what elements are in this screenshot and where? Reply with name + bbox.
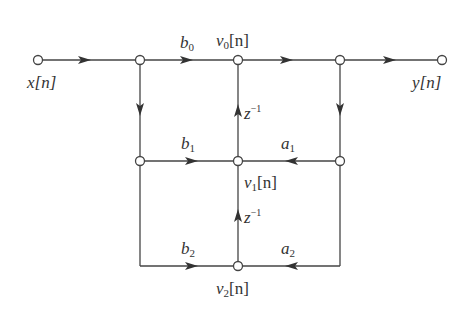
delay-2-sup: −1: [251, 207, 262, 218]
delay-1: z−1: [244, 104, 261, 122]
gain-b1-base: b: [181, 134, 190, 153]
output-label: y[n]: [412, 74, 441, 91]
gain-b1: b1: [181, 135, 195, 154]
node-branch-right: [336, 56, 345, 65]
node-branch-left: [136, 56, 145, 65]
gain-b2-base: b: [181, 239, 190, 258]
gain-a2: a2: [281, 240, 295, 259]
node-mid-left: [136, 157, 145, 166]
gain-a2-base: a: [281, 239, 290, 258]
node-label-v2: v2[n]: [216, 280, 249, 299]
gain-a1-base: a: [281, 134, 290, 153]
gain-a1: a1: [281, 135, 295, 154]
node-v0: [234, 56, 243, 65]
v1-arg: [n]: [257, 173, 277, 192]
delay-2: z−1: [244, 208, 261, 226]
node-label-v1: v1[n]: [244, 174, 277, 193]
node-v1: [234, 157, 243, 166]
gain-b0: b0: [180, 34, 194, 53]
node-v2: [234, 262, 243, 271]
node-label-v0: v0[n]: [216, 32, 249, 51]
output-node: [438, 56, 447, 65]
gain-b2: b2: [181, 240, 195, 259]
delay-2-base: z: [244, 208, 251, 227]
delay-1-base: z: [244, 104, 251, 123]
v0-arg: [n]: [229, 31, 249, 50]
gain-b1-sub: 1: [190, 142, 196, 154]
delay-1-sup: −1: [251, 103, 262, 114]
v2-arg: [n]: [229, 279, 249, 298]
gain-b0-base: b: [180, 33, 189, 52]
gain-b2-sub: 2: [190, 247, 196, 259]
input-label: x[n]: [27, 74, 56, 91]
v2-base: v: [216, 279, 224, 298]
gain-a1-sub: 1: [290, 142, 296, 154]
input-node: [34, 56, 43, 65]
v0-base: v: [216, 31, 224, 50]
gain-a2-sub: 2: [290, 247, 296, 259]
v1-base: v: [244, 173, 252, 192]
node-mid-right: [336, 157, 345, 166]
gain-b0-sub: 0: [189, 41, 195, 53]
